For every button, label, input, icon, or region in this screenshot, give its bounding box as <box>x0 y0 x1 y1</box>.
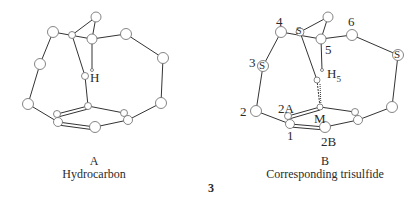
panel-b-letter: B <box>321 155 329 167</box>
figure-number: 3 <box>208 182 214 194</box>
panel-a-caption: Hydrocarbon <box>62 168 125 180</box>
sulfur-atom-label: S <box>259 60 265 71</box>
atom-label-2a: 2A <box>278 102 294 115</box>
hydrogen-label: H <box>90 71 99 84</box>
atom-label-1: 1 <box>287 129 294 142</box>
atom-label-4: 4 <box>276 15 283 28</box>
atom-label-2: 2 <box>240 105 247 118</box>
atom-label-5: 5 <box>325 43 332 56</box>
atom-label-3: 3 <box>249 56 256 69</box>
h5-label: H5 <box>327 67 341 84</box>
h5-subscript: 5 <box>336 74 341 84</box>
atom-label-2b: 2B <box>321 135 336 148</box>
sulfur-atom-label: S <box>296 26 302 36</box>
panel-a-letter: A <box>90 155 99 167</box>
panel-b-caption: Corresponding trisulfide <box>266 168 384 180</box>
atom-label-6: 6 <box>348 15 355 28</box>
atom-label-m: M <box>314 112 326 125</box>
sulfur-atom-label: S <box>394 49 400 60</box>
